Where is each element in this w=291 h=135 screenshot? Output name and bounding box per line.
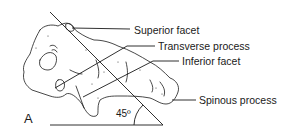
label-transverse-process: Transverse process	[158, 41, 250, 52]
label-spinous-process: Spinous process	[199, 95, 277, 106]
label-inferior-facet: Inferior facet	[182, 56, 240, 67]
pedicle-detail	[39, 53, 56, 70]
leader-superior-facet	[72, 28, 130, 29]
label-superior-facet: Superior facet	[134, 25, 199, 36]
angle-label: 45º	[116, 109, 131, 119]
angle-arc	[134, 105, 143, 125]
panel-label: A	[24, 112, 33, 125]
vertebra-diagram	[0, 0, 291, 135]
superior-facet-shape	[66, 23, 74, 31]
